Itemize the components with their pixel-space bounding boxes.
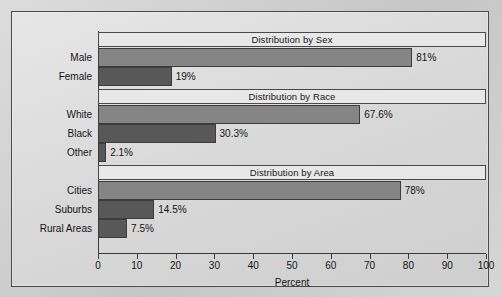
x-tick-label-10: 10: [122, 260, 152, 271]
x-tick-label-40: 40: [238, 260, 268, 271]
bar-black: [98, 124, 216, 143]
x-tick-label-100: 100: [471, 260, 501, 271]
x-tick-label-60: 60: [316, 260, 346, 271]
value-label-white: 67.6%: [364, 105, 392, 124]
value-label-rural-areas: 7.5%: [131, 219, 154, 238]
section-header-0: Distribution by Sex: [98, 32, 486, 47]
value-label-male: 81%: [416, 48, 436, 67]
x-tick-80: [408, 254, 409, 259]
bar-male: [98, 48, 412, 67]
section-header-2: Distribution by Area: [98, 165, 486, 180]
figure-frame: Distribution by Sex81%19%Distribution by…: [11, 11, 489, 287]
x-tick-100: [486, 254, 487, 259]
category-label-other: Other: [12, 143, 92, 162]
x-tick-60: [331, 254, 332, 259]
bar-female: [98, 67, 172, 86]
x-tick-label-50: 50: [277, 260, 307, 271]
category-label-white: White: [12, 105, 92, 124]
x-axis-title: Percent: [98, 277, 486, 288]
category-label-black: Black: [12, 124, 92, 143]
x-tick-10: [137, 254, 138, 259]
category-label-cities: Cities: [12, 181, 92, 200]
x-tick-20: [176, 254, 177, 259]
value-label-black: 30.3%: [220, 124, 248, 143]
bar-cities: [98, 181, 401, 200]
value-label-other: 2.1%: [110, 143, 133, 162]
page-background: Distribution by Sex81%19%Distribution by…: [0, 0, 502, 297]
value-label-suburbs: 14.5%: [158, 200, 186, 219]
value-label-cities: 78%: [405, 181, 425, 200]
bar-white: [98, 105, 360, 124]
x-tick-70: [370, 254, 371, 259]
x-tick-40: [253, 254, 254, 259]
category-label-suburbs: Suburbs: [12, 200, 92, 219]
category-label-male: Male: [12, 48, 92, 67]
chart-plot-area: Distribution by Sex81%19%Distribution by…: [98, 31, 486, 254]
bar-suburbs: [98, 200, 154, 219]
x-tick-label-0: 0: [83, 260, 113, 271]
x-tick-90: [447, 254, 448, 259]
x-tick-label-30: 30: [199, 260, 229, 271]
x-tick-0: [98, 254, 99, 259]
x-tick-50: [292, 254, 293, 259]
x-tick-label-70: 70: [355, 260, 385, 271]
x-tick-label-20: 20: [161, 260, 191, 271]
category-label-female: Female: [12, 67, 92, 86]
bar-other: [98, 143, 106, 162]
x-tick-label-90: 90: [432, 260, 462, 271]
x-tick-30: [214, 254, 215, 259]
bar-rural-areas: [98, 219, 127, 238]
x-tick-label-80: 80: [393, 260, 423, 271]
category-label-rural-areas: Rural Areas: [12, 219, 92, 238]
section-header-1: Distribution by Race: [98, 89, 486, 104]
value-label-female: 19%: [176, 67, 196, 86]
